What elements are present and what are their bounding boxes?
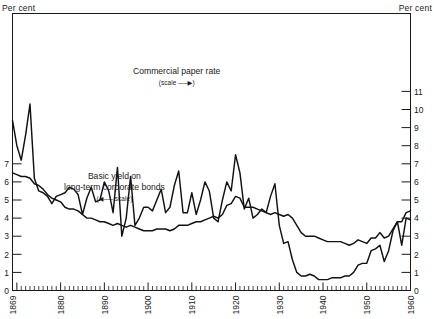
svg-text:2: 2 — [414, 250, 419, 260]
svg-text:0: 0 — [414, 286, 419, 296]
svg-text:1950: 1950 — [362, 295, 372, 314]
svg-text:11: 11 — [414, 87, 423, 97]
x-axis-ticks: 1869188018901900191019201930194019501960 — [8, 295, 416, 314]
svg-text:1930: 1930 — [275, 295, 285, 314]
svg-text:1910: 1910 — [187, 295, 197, 314]
svg-text:9: 9 — [414, 123, 419, 133]
svg-text:1880: 1880 — [56, 295, 66, 314]
svg-text:6: 6 — [4, 177, 9, 187]
svg-text:6: 6 — [414, 177, 419, 187]
annotation-by-scale: (◀── scale) — [64, 193, 165, 204]
svg-text:1: 1 — [4, 268, 9, 278]
svg-text:4: 4 — [4, 213, 9, 223]
svg-text:1: 1 — [414, 268, 419, 278]
right-axis-ticks: 01234567891011 — [402, 87, 424, 296]
annotation-by-line2: long-term corporate bonds — [64, 182, 165, 193]
svg-text:5: 5 — [414, 195, 419, 205]
svg-text:1920: 1920 — [231, 295, 241, 314]
svg-text:1960: 1960 — [406, 295, 416, 314]
svg-text:5: 5 — [4, 195, 9, 205]
chart-canvas: 01234567 01234567891011 1869188018901900… — [0, 0, 434, 319]
svg-text:3: 3 — [414, 231, 419, 241]
x-axis-minor-ticks — [13, 283, 411, 291]
svg-text:1890: 1890 — [100, 295, 110, 314]
chart-figure: Per cent Per cent 01234567 0123456789101… — [0, 0, 434, 319]
svg-text:1900: 1900 — [143, 295, 153, 314]
svg-text:3: 3 — [4, 231, 9, 241]
annotation-basic-yield: Basic yield on long-term corporate bonds… — [64, 171, 165, 204]
svg-text:2: 2 — [4, 250, 9, 260]
svg-text:7: 7 — [4, 159, 9, 169]
svg-text:1940: 1940 — [318, 295, 328, 314]
svg-text:10: 10 — [414, 105, 424, 115]
svg-text:7: 7 — [414, 159, 419, 169]
svg-text:8: 8 — [414, 141, 419, 151]
svg-text:1869: 1869 — [8, 295, 18, 314]
annotation-by-line1: Basic yield on — [64, 171, 165, 182]
annotation-commercial-paper-rate: Commercial paper rate (scale ──▶) — [133, 66, 220, 88]
annotation-cp-scale: (scale ──▶) — [133, 77, 220, 88]
svg-text:4: 4 — [414, 213, 419, 223]
plot-frame — [13, 14, 411, 291]
svg-text:0: 0 — [4, 286, 9, 296]
annotation-cp-line1: Commercial paper rate — [133, 66, 220, 77]
